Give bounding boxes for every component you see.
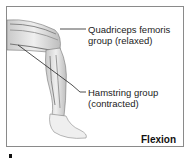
label-hamstring: Hamstring group (contracted) <box>88 87 158 109</box>
label-quadriceps: Quadriceps femoris group (relaxed) <box>88 24 170 46</box>
caption-flexion: Flexion <box>141 134 176 145</box>
label-hamstring-line1: Hamstring group <box>88 87 158 98</box>
label-quadriceps-line2: group (relaxed) <box>88 35 170 46</box>
corner-mark <box>9 154 12 158</box>
label-quadriceps-line1: Quadriceps femoris <box>88 24 170 35</box>
label-hamstring-line2: (contracted) <box>88 98 158 109</box>
